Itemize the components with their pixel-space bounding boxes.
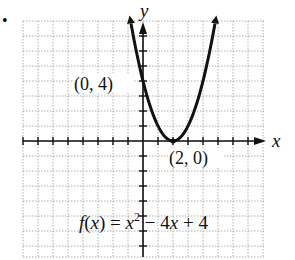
x-axis-label: x bbox=[271, 130, 281, 151]
curve-arrow-right-icon bbox=[211, 16, 219, 25]
y-axis-label: y bbox=[138, 0, 149, 21]
y-axis-arrow-icon bbox=[139, 22, 147, 34]
curve-arrow-left-icon bbox=[127, 16, 135, 25]
bullet-marker: • bbox=[2, 12, 8, 29]
x-axis bbox=[23, 137, 266, 145]
point-label-2-0: (2, 0) bbox=[169, 148, 208, 169]
vertex-point bbox=[171, 139, 176, 144]
point-label-0-4: (0, 4) bbox=[74, 74, 113, 95]
equation-label: f(x) = x2 − 4x + 4 bbox=[79, 210, 208, 234]
graph-canvas: • y x (0, 4) (2, 0) f(x) = x2 − 4x + 4 bbox=[0, 0, 295, 260]
x-axis-arrow-icon bbox=[254, 137, 266, 145]
